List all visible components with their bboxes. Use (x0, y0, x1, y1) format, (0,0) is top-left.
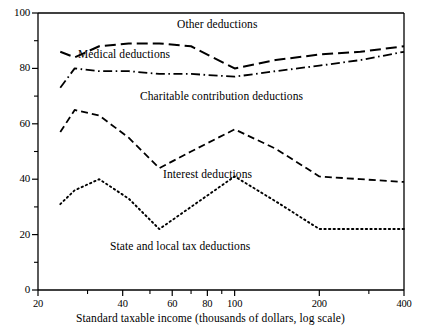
x-tick-label: 400 (384, 298, 421, 309)
x-tick-label: 20 (18, 298, 58, 309)
y-tick-label: 80 (0, 61, 30, 73)
chart-figure: 020406080100 20406080100200400 Other ded… (0, 0, 421, 334)
x-tick-label: 40 (103, 298, 143, 309)
series-label: State and local tax deductions (110, 240, 250, 252)
y-tick-label: 20 (0, 228, 30, 240)
series-label: Charitable contribution deductions (140, 90, 303, 102)
series-group (60, 43, 404, 229)
x-axis-title: Standard taxable income (thousands of do… (0, 312, 421, 324)
series-label: Medical deductions (78, 48, 170, 60)
y-tick-label: 100 (0, 6, 30, 18)
y-tick-label: 40 (0, 172, 30, 184)
y-tick-label: 60 (0, 117, 30, 129)
x-tick-label: 200 (299, 298, 339, 309)
series-label: Interest deductions (163, 168, 252, 180)
y-tick-label: 0 (0, 283, 30, 295)
x-tick-label: 100 (215, 298, 255, 309)
series-line (60, 176, 404, 229)
x-tick-label: 60 (152, 298, 192, 309)
chart-plot-svg (0, 0, 421, 334)
series-label: Other deductions (177, 18, 257, 30)
